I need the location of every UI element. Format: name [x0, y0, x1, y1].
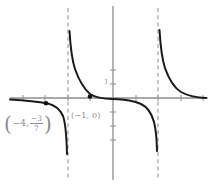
curve-branch-middle-lower	[113, 99, 157, 151]
curve-branch-far-right	[160, 30, 207, 98]
left-paren: (	[4, 116, 12, 132]
point-marker-minus-four	[44, 101, 49, 106]
plot-canvas	[0, 0, 211, 185]
curve-branch-middle-upper	[70, 31, 114, 99]
point-label-minus-four-minus-three-sevenths: ( −4, −3 7 )	[4, 115, 52, 132]
right-paren: )	[44, 116, 52, 132]
rational-function-graph: (−1, 0) 1 ( −4, −3 7 )	[0, 0, 211, 185]
point-label-minus-one-zero: (−1, 0)	[71, 112, 101, 120]
point-x-value: −4,	[13, 119, 29, 128]
fraction-numerator: −3	[30, 115, 43, 123]
fraction-denominator: 7	[33, 125, 40, 133]
point-marker-minus-one-zero	[88, 94, 93, 99]
fraction-minus-three-sevenths: −3 7	[30, 115, 43, 132]
y-axis-tick-label-one: 1	[104, 79, 108, 86]
function-curve	[10, 30, 206, 154]
